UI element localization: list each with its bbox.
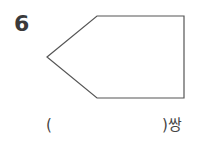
pentagon-outline [47,16,184,98]
answer-close-paren-unit[interactable]: )쌍 [162,118,182,133]
answer-open-paren: ( [46,118,52,133]
unit-label: 쌍 [168,116,182,134]
